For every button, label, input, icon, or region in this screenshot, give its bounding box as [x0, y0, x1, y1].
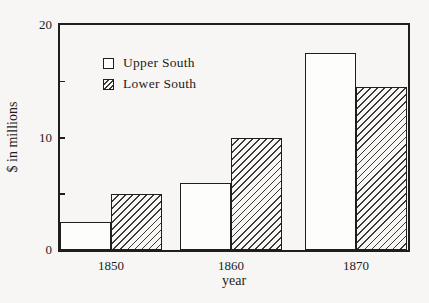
bar-lower-south-1860: [231, 138, 282, 251]
legend-label-upper-south: Upper South: [123, 56, 195, 70]
legend-label-lower-south: Lower South: [123, 77, 196, 91]
y-tick-label-20: 20: [16, 17, 52, 32]
plot-area: Upper South Lower South: [58, 23, 410, 252]
legend-item-upper-south: Upper South: [103, 56, 196, 70]
y-axis-tick-15: [60, 81, 65, 83]
legend-item-lower-south: Lower South: [103, 77, 196, 91]
bar-chart-figure: $ in millions Upper South Lower South ye…: [0, 0, 429, 303]
y-tick-label-0: 0: [16, 242, 52, 257]
y-axis-tick-5: [60, 193, 65, 195]
lower-south-swatch: [103, 79, 114, 90]
x-axis-title: year: [58, 273, 410, 289]
y-tick-label-10: 10: [16, 130, 52, 145]
legend: Upper South Lower South: [103, 56, 196, 98]
bar-lower-south-1870: [356, 87, 407, 250]
bar-upper-south-1870: [305, 53, 356, 250]
x-tick-label-1850: 1850: [76, 258, 146, 274]
bar-lower-south-1850: [111, 194, 162, 250]
y-axis-tick-10: [60, 137, 65, 139]
x-tick-label-1870: 1870: [321, 258, 391, 274]
bar-upper-south-1850: [60, 222, 111, 250]
x-tick-label-1860: 1860: [196, 258, 266, 274]
bar-upper-south-1860: [180, 183, 231, 251]
upper-south-swatch: [103, 58, 114, 69]
